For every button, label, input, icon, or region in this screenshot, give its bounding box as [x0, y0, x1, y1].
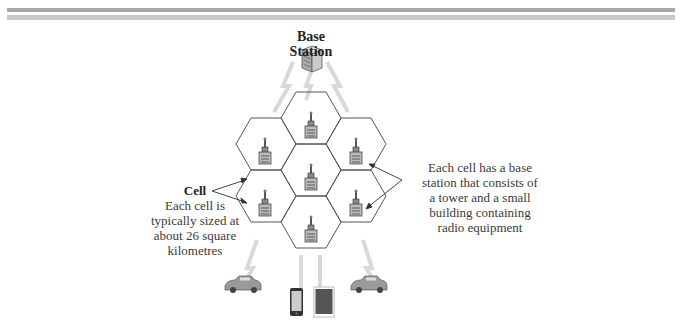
- cell-callout-line: Each cell is: [140, 198, 250, 213]
- car-left-icon: [225, 276, 261, 293]
- base-station-title-line1: Base: [281, 29, 341, 44]
- tower-icon: [259, 138, 271, 165]
- car-right-icon: [351, 276, 387, 293]
- tower-callout-line: a tower and a small: [405, 190, 555, 205]
- tower-icon: [305, 216, 317, 243]
- base-station-label: Base Station: [281, 29, 341, 59]
- tower-callout-line: Each cell has a base: [405, 160, 555, 175]
- tower-callout-line: radio equipment: [405, 220, 555, 235]
- cell-callout-title: Cell: [140, 183, 250, 198]
- tower-icon: [305, 164, 317, 191]
- tower-icon: [305, 112, 317, 139]
- tower-icon: [259, 190, 271, 217]
- cell-callout-line: kilometres: [140, 243, 250, 258]
- tower-callout-line: station that consists of: [405, 175, 555, 190]
- tower-callout: Each cell has a base station that consis…: [405, 160, 555, 235]
- tablet-icon: [314, 287, 334, 317]
- cell-callout: Cell Each cell is typically sized at abo…: [140, 183, 250, 258]
- cellular-network-diagram: [0, 0, 683, 335]
- tower-callout-line: building containing: [405, 205, 555, 220]
- smartphone-icon: [290, 288, 303, 316]
- base-station-title-line2: Station: [281, 44, 341, 59]
- tower-icon: [350, 190, 362, 217]
- tower-icon: [350, 138, 362, 165]
- cell-callout-line: about 26 square: [140, 228, 250, 243]
- cell-callout-line: typically sized at: [140, 213, 250, 228]
